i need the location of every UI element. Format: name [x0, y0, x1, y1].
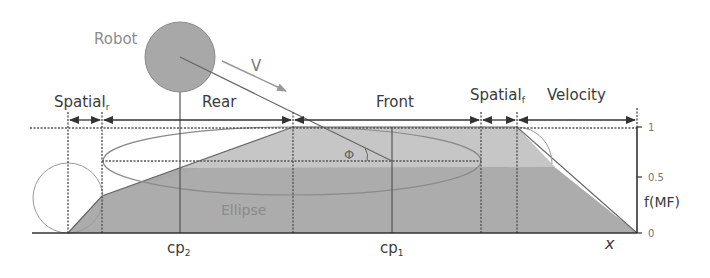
membership-function-diagram: Robot V Spatialr Rear Front Spatialf Vel… [0, 0, 710, 278]
cp2-label: cp2 [167, 239, 191, 258]
ellipse-label: Ellipse [221, 202, 266, 218]
spatial-f-label: Spatialf [470, 86, 526, 105]
y-axis-label: f(MF) [644, 194, 680, 210]
y-tick-label-0: 0 [648, 228, 654, 239]
velocity-label: Velocity [547, 86, 606, 104]
y-tick-label-1: 1 [648, 122, 654, 133]
front-label: Front [376, 93, 414, 111]
rear-label: Rear [202, 93, 237, 111]
x-axis-label: x [604, 234, 615, 253]
robot-label: Robot [94, 30, 138, 48]
spatial-r-label: Spatialr [54, 93, 110, 112]
phi-label: Φ [344, 147, 354, 162]
cp1-label: cp1 [380, 239, 404, 258]
velocity-vector-label: V [251, 57, 262, 75]
y-tick-label-05: 0.5 [648, 172, 664, 183]
